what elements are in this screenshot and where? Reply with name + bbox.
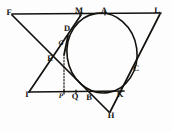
geometric-figure-root: FMALDGECIPQBKH (0, 0, 172, 132)
point-label-B: B (86, 93, 92, 102)
tangent-ticks-group (64, 11, 105, 94)
point-label-F: F (6, 8, 11, 17)
point-label-P: P (59, 93, 63, 100)
point-label-C: C (133, 64, 139, 73)
point-label-G: G (58, 40, 63, 47)
point-label-Q: Q (72, 92, 79, 101)
point-label-H: H (108, 111, 115, 120)
circle-group (62, 9, 142, 98)
point-label-D: D (64, 24, 70, 33)
figure-canvas (0, 0, 172, 132)
point-label-L: L (154, 6, 160, 15)
top-line-F-to-L (12, 13, 161, 14)
point-label-K: K (117, 90, 124, 99)
point-label-I: I (25, 90, 28, 99)
point-label-A: A (101, 6, 107, 15)
point-label-M: M (75, 6, 83, 15)
inscribed-circle (62, 9, 142, 98)
point-label-E: E (47, 54, 53, 63)
line-I-to-M (29, 15, 81, 92)
